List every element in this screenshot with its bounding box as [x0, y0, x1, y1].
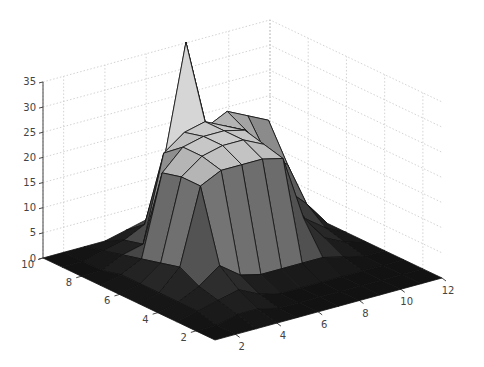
x-tick-label: 10 — [400, 296, 413, 307]
y-tick-label: 4 — [142, 314, 148, 325]
y-tick — [114, 294, 119, 296]
z-tick-label: 5 — [30, 227, 36, 238]
z-tick-label: 35 — [23, 76, 36, 87]
z-tick-label: 30 — [23, 102, 36, 113]
z-tick-label: 20 — [23, 152, 36, 163]
y-tick — [153, 313, 158, 315]
z-tick-label: 15 — [23, 177, 36, 188]
z-tick-label: 10 — [23, 202, 36, 213]
y-tick-label: 10 — [21, 259, 34, 270]
x-tick — [277, 323, 281, 326]
z-tick — [39, 233, 43, 234]
x-tick — [318, 312, 322, 315]
z-gridline — [43, 20, 442, 102]
y-tick — [76, 276, 81, 278]
z-tick — [39, 82, 43, 83]
z-tick — [39, 157, 43, 158]
x-tick — [359, 301, 363, 304]
z-tick — [39, 107, 43, 108]
x-tick-label: 4 — [280, 330, 286, 341]
z-tick — [39, 208, 43, 209]
y-tick-label: 6 — [104, 295, 110, 306]
surface-mesh — [43, 42, 442, 340]
x-tick-label: 12 — [442, 285, 455, 296]
z-tick — [39, 132, 43, 133]
x-tick — [442, 278, 446, 281]
x-tick — [236, 334, 240, 337]
surface-plot: 0510152025303524681024681012 — [0, 0, 484, 367]
x-tick-label: 6 — [321, 319, 327, 330]
z-tick-label: 25 — [23, 127, 36, 138]
z-tick — [39, 183, 43, 184]
y-tick — [191, 331, 196, 333]
x-tick — [401, 289, 405, 292]
y-tick-label: 8 — [66, 277, 72, 288]
x-tick-label: 2 — [238, 341, 244, 352]
x-tick-label: 8 — [362, 308, 368, 319]
y-tick-label: 2 — [181, 332, 187, 343]
